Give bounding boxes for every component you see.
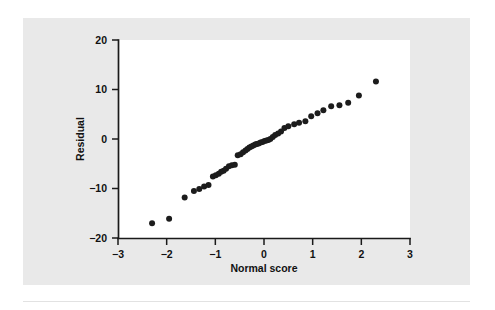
x-tick-label: −1	[209, 248, 221, 260]
scatter-point	[308, 113, 314, 119]
bottom-separator-rule	[23, 301, 470, 302]
figure-container: −20−1001020 −3−2−10123 Normal score Resi…	[0, 0, 495, 310]
scatter-point	[302, 118, 308, 124]
y-tick-label: −20	[89, 232, 107, 244]
scatter-point	[206, 182, 212, 188]
x-tick-label: 2	[358, 248, 364, 260]
x-tick-label: −2	[161, 248, 173, 260]
scatter-point	[232, 162, 238, 168]
scatter-point	[296, 120, 302, 126]
scatter-point	[285, 123, 291, 129]
x-tick-label: 1	[310, 248, 316, 260]
y-tick-label: 20	[95, 34, 107, 46]
x-tick-label: −3	[112, 248, 124, 260]
scatter-point	[191, 188, 197, 194]
y-tick-label: −10	[89, 182, 107, 194]
scatter-point	[356, 92, 362, 98]
scatter-point	[328, 103, 334, 109]
scatter-point	[166, 216, 172, 222]
qq-plot-scatter-chart: −20−1001020 −3−2−10123 Normal score Resi…	[0, 0, 495, 310]
y-axis-title: Residual	[74, 117, 86, 161]
scatter-point	[373, 79, 379, 85]
scatter-point	[336, 102, 342, 108]
y-tick-label: 0	[101, 133, 107, 145]
x-axis-tick-group: −3−2−10123	[112, 238, 413, 260]
scatter-point	[182, 194, 188, 200]
scatter-point-group	[149, 79, 379, 227]
scatter-point	[315, 110, 321, 116]
y-tick-label: 10	[95, 83, 107, 95]
scatter-point	[345, 100, 351, 106]
x-tick-label: 0	[261, 248, 267, 260]
x-tick-label: 3	[407, 248, 413, 260]
scatter-point	[149, 220, 155, 226]
x-axis-title: Normal score	[230, 262, 297, 274]
y-axis-tick-group: −20−1001020	[89, 34, 118, 244]
scatter-point	[320, 107, 326, 113]
